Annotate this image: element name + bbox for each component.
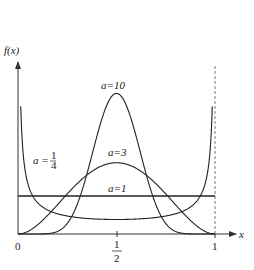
label-a3: a=3 xyxy=(108,146,127,158)
label-a10: a=10 xyxy=(101,79,125,91)
curve-a-3 xyxy=(18,163,215,234)
label-a-quarter: a = xyxy=(33,154,49,166)
x-axis-label: x xyxy=(238,228,244,240)
tick-label-0: 0 xyxy=(15,240,21,252)
tick-label-half-num: 1 xyxy=(114,238,120,250)
beta-density-chart: f(x) x 0 1 2 1 a=10 a=3 a=1 a = 1 4 xyxy=(0,0,254,270)
y-axis-label: f(x) xyxy=(4,44,20,57)
label-a-quarter-den: 4 xyxy=(51,159,57,171)
label-a1: a=1 xyxy=(108,182,126,194)
tick-label-1: 1 xyxy=(212,240,218,252)
tick-label-half-den: 2 xyxy=(114,252,120,264)
